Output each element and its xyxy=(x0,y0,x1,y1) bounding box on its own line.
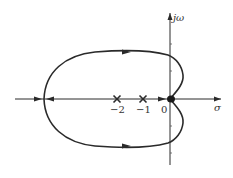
root-locus-diagram: jω σ −2 −1 0 xyxy=(0,0,233,178)
tick-label-minus-1: −1 xyxy=(136,104,151,115)
tick-label-minus-2: −2 xyxy=(110,104,125,115)
arrow-right-icon xyxy=(158,97,166,102)
origin-label: 0 xyxy=(161,104,167,115)
real-axis-label: σ xyxy=(214,102,222,113)
pole-marker-origin xyxy=(167,96,175,103)
imag-axis-label: jω xyxy=(171,12,184,23)
arrow-left-icon xyxy=(46,97,54,102)
arrow-right-icon xyxy=(34,97,42,102)
upper-branch xyxy=(44,51,183,99)
